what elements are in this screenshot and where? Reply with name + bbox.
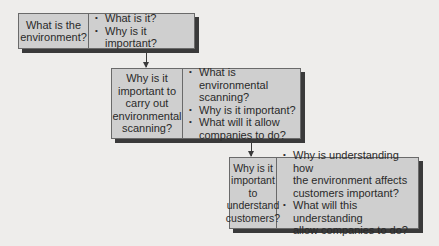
- question-line: important to: [112, 85, 181, 98]
- question-line: scanning?: [112, 122, 181, 135]
- bullet-icon: •: [283, 199, 293, 237]
- question-line: important to: [226, 174, 280, 199]
- bullet-icon: •: [95, 25, 105, 50]
- point-text: Why is understanding howthe environment …: [293, 149, 414, 199]
- bullet-point: •Why is understanding howthe environment…: [283, 149, 414, 199]
- question-line: Why is it: [112, 72, 181, 85]
- bullet-icon: •: [189, 116, 199, 141]
- arrow-down-icon: [251, 141, 252, 156]
- bullet-point: •What will this understandingallow compa…: [283, 199, 414, 237]
- node-question: Why is it important to understand custom…: [230, 158, 277, 228]
- flow-node-environmental-scanning: Why is it important to carry out environ…: [111, 68, 301, 139]
- node-question: What is the environment?: [19, 14, 89, 48]
- point-text: Why is it important?: [105, 25, 190, 50]
- arrow-down-icon: [146, 50, 147, 67]
- flow-node-understand-customers: Why is it important to understand custom…: [229, 157, 419, 229]
- node-points: •Why is understanding howthe environment…: [277, 158, 418, 228]
- bullet-point: •Why is it important?: [189, 104, 296, 117]
- bullet-point: •What is environmentalscanning?: [189, 66, 296, 104]
- node-question: Why is it important to carry out environ…: [112, 69, 183, 138]
- bullet-point: •What will it allowcompanies to do?: [189, 116, 296, 141]
- bullet-point: •What is it?: [95, 12, 190, 25]
- question-line: environment?: [20, 31, 87, 44]
- bullet-icon: •: [283, 149, 293, 199]
- question-line: customers?: [226, 212, 280, 225]
- point-text: What is it?: [105, 12, 156, 25]
- question-line: Why is it: [226, 162, 280, 175]
- bullet-icon: •: [95, 12, 105, 25]
- point-text: What is environmentalscanning?: [199, 66, 296, 104]
- flow-node-environment: What is the environment? •What is it? •W…: [18, 13, 195, 49]
- question-line: What is the: [20, 19, 87, 32]
- point-text: What will it allowcompanies to do?: [199, 116, 286, 141]
- question-line: carry out: [112, 97, 181, 110]
- point-text: What will this understandingallow compan…: [293, 199, 414, 237]
- point-text: Why is it important?: [199, 104, 296, 117]
- bullet-icon: •: [189, 66, 199, 104]
- node-points: •What is environmentalscanning? •Why is …: [183, 69, 300, 138]
- node-points: •What is it? •Why is it important?: [89, 14, 194, 48]
- bullet-point: •Why is it important?: [95, 25, 190, 50]
- question-line: understand: [226, 199, 280, 212]
- question-line: environmental: [112, 110, 181, 123]
- bullet-icon: •: [189, 104, 199, 117]
